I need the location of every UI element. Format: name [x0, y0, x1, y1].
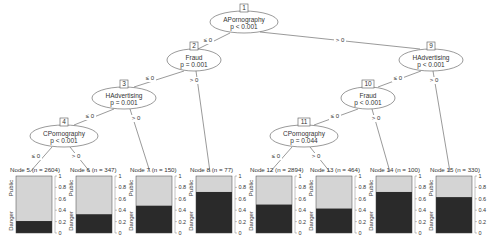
class-label-danger: Danger: [188, 211, 194, 231]
tree-edge: ≤ 0: [134, 71, 184, 87]
terminal-node: Node 7 (n = 150)PublicDanger00.20.40.60.…: [128, 166, 186, 236]
inner-node-2: 2Fraudp = 0.001: [167, 42, 221, 71]
axis-tick-label: 0.8: [299, 184, 307, 190]
terminal-node-label: Node 5 (n = 2604): [10, 166, 60, 173]
axis-tick-label: 0.6: [479, 196, 487, 202]
class-label-danger: Danger: [308, 211, 314, 231]
node-variable: Fraud: [360, 92, 377, 99]
bar-public: [376, 176, 412, 192]
axis-tick-label: 0.8: [179, 184, 187, 190]
axis-tick-label: 0.4: [239, 207, 247, 213]
terminal-node: Node 15 (n = 330)PublicDanger00.20.40.60…: [428, 166, 486, 236]
axis-tick-label: 1: [59, 173, 62, 179]
inner-node-11: 11CPornographyp = 0.044: [270, 118, 338, 147]
axis-tick-label: 0: [239, 230, 242, 236]
axis-tick-label: 0: [479, 230, 482, 236]
class-label-danger: Danger: [248, 211, 254, 231]
inner-node-4: 4CPornographyp < 0.001: [30, 118, 98, 147]
node-p-value: p < 0.001: [354, 99, 382, 107]
bar-public: [316, 176, 352, 208]
bar-danger: [256, 205, 292, 234]
bar-danger: [316, 208, 352, 233]
tree-edge: > 0: [428, 71, 450, 172]
bar-danger: [196, 192, 232, 233]
node-id: 1: [242, 4, 246, 11]
inner-node-3: 3HAdvertisingp = 0.001: [92, 80, 156, 109]
edge-line: [433, 71, 450, 172]
axis-tick-label: 0.4: [419, 207, 427, 213]
inner-node-10: 10Fraudp < 0.001: [341, 80, 395, 109]
node-id: 3: [122, 80, 126, 87]
axis-tick-label: 1: [359, 173, 362, 179]
bar-public: [76, 176, 112, 214]
bar-public: [436, 176, 472, 197]
edge-label: > 0: [312, 153, 321, 159]
node-id: 11: [301, 118, 308, 125]
class-label-public: Public: [248, 180, 254, 196]
axis-tick-label: 0.4: [359, 207, 367, 213]
tree-edge: ≤ 0: [314, 109, 358, 125]
edge-label: ≤ 0: [86, 113, 95, 119]
terminal-node: Node 14 (n = 100)PublicDanger00.20.40.60…: [368, 166, 426, 236]
tree-edge: > 0: [260, 32, 420, 49]
terminal-node-label: Node 8 (n = 77): [190, 166, 233, 173]
node-p-value: p = 0.001: [110, 99, 138, 107]
edge-label: ≤ 0: [146, 75, 155, 81]
edge-label: > 0: [72, 153, 81, 159]
bar-danger: [436, 197, 472, 233]
bar-public: [256, 176, 292, 205]
axis-tick-label: 1: [239, 173, 242, 179]
edge-label: ≤ 0: [32, 153, 41, 159]
axis-tick-label: 1: [179, 173, 182, 179]
class-label-public: Public: [128, 180, 134, 196]
axis-tick-label: 0.2: [239, 219, 247, 225]
terminal-node: Node 8 (n = 77)PublicDanger00.20.40.60.8…: [188, 166, 246, 236]
bar-danger: [376, 192, 412, 233]
tree-edge: > 0: [370, 109, 390, 172]
terminal-node-label: Node 13 (n = 464): [310, 166, 360, 173]
axis-tick-label: 0: [59, 230, 62, 236]
node-p-value: p < 0.001: [50, 137, 78, 145]
axis-tick-label: 0.2: [179, 219, 187, 225]
inner-node-9: 9HAdvertisingp < 0.001: [399, 42, 463, 71]
axis-tick-label: 0: [299, 230, 302, 236]
node-p-value: p = 0.001: [180, 61, 208, 69]
class-label-public: Public: [8, 180, 14, 196]
axis-tick-label: 0.2: [479, 219, 487, 225]
axis-tick-label: 0.4: [119, 207, 127, 213]
terminal-node-label: Node 6 (n = 347): [70, 166, 117, 173]
terminal-node-label: Node 15 (n = 330): [430, 166, 480, 173]
axis-tick-label: 0.2: [119, 219, 127, 225]
axis-tick-label: 0.6: [119, 196, 127, 202]
node-p-value: p = 0.044: [290, 137, 318, 145]
node-variable: Fraud: [186, 54, 203, 61]
axis-tick-label: 0.8: [359, 184, 367, 190]
inner-node-1: 1APornographyp < 0.001: [210, 4, 278, 33]
edge-label: ≤ 0: [272, 153, 281, 159]
terminal-node: Node 12 (n = 2894)PublicDanger00.20.40.6…: [248, 166, 306, 236]
edge-label: > 0: [372, 115, 381, 121]
axis-tick-label: 1: [299, 173, 302, 179]
node-p-value: p < 0.001: [417, 61, 445, 69]
bar-public: [196, 176, 232, 192]
tree-edge: ≤ 0: [198, 33, 230, 49]
edge-label: > 0: [190, 77, 199, 83]
axis-tick-label: 0.2: [59, 219, 67, 225]
decision-tree-diagram: ≤ 0> 0≤ 0> 0≤ 0> 0≤ 0> 0≤ 0> 0≤ 0> 0≤ 0>…: [0, 0, 489, 239]
bar-public: [136, 176, 172, 206]
tree-edge: > 0: [188, 71, 210, 172]
edge-line: [134, 71, 184, 87]
axis-tick-label: 0.6: [359, 196, 367, 202]
axis-tick-label: 1: [479, 173, 482, 179]
tree-edge: ≤ 0: [74, 109, 114, 125]
edge-label: > 0: [430, 77, 439, 83]
terminal-node: Node 5 (n = 2604)PublicDanger00.20.40.60…: [8, 166, 66, 236]
axis-tick-label: 0: [419, 230, 422, 236]
class-label-danger: Danger: [8, 211, 14, 231]
node-id: 4: [62, 118, 66, 125]
node-id: 2: [192, 42, 196, 49]
class-label-danger: Danger: [68, 211, 74, 231]
class-label-danger: Danger: [368, 211, 374, 231]
axis-tick-label: 0.6: [179, 196, 187, 202]
terminal-node: Node 6 (n = 347)PublicDanger00.20.40.60.…: [68, 166, 126, 236]
